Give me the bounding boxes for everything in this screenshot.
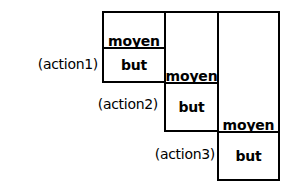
cell-label-but-3: but [235,149,261,164]
goal-column-1: moyen but [102,11,166,83]
cell-label-moyen-3: moyen [223,118,275,133]
goal-column-3: moyen but [217,11,280,181]
action-label-1: (action1) [0,56,98,72]
diagram-canvas: moyen but moyen but moyen but (action1) … [0,0,295,191]
action-label-3: (action3) [110,146,215,162]
cell-label-but-2: but [178,100,204,115]
cell-column3-goal: but [219,133,278,179]
cell-column2-goal: but [166,84,217,130]
cell-column3-means: moyen [219,13,278,133]
cell-column2-means: moyen [166,13,217,84]
goal-column-2: moyen but [164,11,219,132]
action-label-2: (action2) [50,96,158,112]
cell-column1-means: moyen [104,13,164,49]
cell-label-moyen-1: moyen [108,34,160,49]
cell-label-but-1: but [121,58,147,73]
cell-label-moyen-2: moyen [166,69,218,84]
cell-column1-goal: but [104,49,164,81]
